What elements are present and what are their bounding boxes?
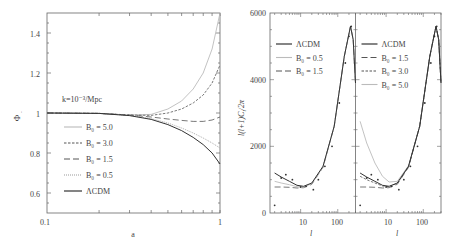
x-axis-label-l-b: l xyxy=(396,229,399,238)
data-point xyxy=(391,185,393,187)
data-point xyxy=(280,177,282,179)
legend-item: B₀ = 1.5 xyxy=(382,54,409,63)
xtick-1: 1 xyxy=(218,218,222,227)
legend-item: ΛCDM xyxy=(86,187,110,196)
xtick-a-10: 10 xyxy=(299,218,307,227)
ytick-0.8: 0.8 xyxy=(30,150,40,159)
xtick-a-100: 100 xyxy=(331,218,343,227)
svg-text:-: - xyxy=(19,111,24,113)
data-point xyxy=(344,62,346,64)
xtick-b-10: 10 xyxy=(384,218,392,227)
ytick-2000: 2000 xyxy=(250,142,266,151)
svg-text:Φ: Φ xyxy=(12,114,22,121)
right-b-legend: ΛCDMB₀ = 1.5B₀ = 3.0B₀ = 5.0 xyxy=(362,40,409,90)
data-point xyxy=(338,102,340,104)
legend-item: B₀ = 1.5 xyxy=(86,155,113,164)
legend-item: B₀ = 5.0 xyxy=(382,81,409,90)
data-point xyxy=(291,179,293,181)
data-point xyxy=(331,145,333,147)
data-point xyxy=(359,204,361,206)
legend-item: ΛCDM xyxy=(296,40,320,49)
ytick-0.6: 0.6 xyxy=(30,190,40,199)
data-point xyxy=(366,177,368,179)
data-point xyxy=(312,189,314,191)
data-point xyxy=(409,165,411,167)
curve-2 xyxy=(47,113,220,121)
data-point xyxy=(434,35,436,37)
cl-curve xyxy=(360,26,441,182)
ytick-4000: 4000 xyxy=(250,76,266,85)
data-point xyxy=(274,204,276,206)
data-point xyxy=(285,174,287,176)
cl-curve xyxy=(275,26,356,187)
legend-item: B₀ = 0.5 xyxy=(296,54,323,63)
left-legend: B₀ = 5.0B₀ = 3.0B₀ = 1.5B₀ = 0.5ΛCDM xyxy=(64,123,113,196)
xtick-b-100: 100 xyxy=(416,218,428,227)
legend-item: B₀ = 0.5 xyxy=(86,171,113,180)
data-point xyxy=(300,186,302,188)
data-point xyxy=(417,145,419,147)
data-point xyxy=(317,179,319,181)
xtick-0.1: 0.1 xyxy=(40,218,50,227)
legend-item: B₀ = 3.0 xyxy=(382,67,409,76)
data-point xyxy=(348,35,350,37)
cl-curve xyxy=(360,26,441,186)
ytick-1: 1 xyxy=(36,110,40,119)
legend-item: B₀ = 3.0 xyxy=(86,139,113,148)
cl-curve xyxy=(360,26,441,188)
data-point xyxy=(436,25,438,27)
x-axis-label-l-a: l xyxy=(310,229,313,238)
right-a-legend: ΛCDMB₀ = 0.5B₀ = 1.5 xyxy=(276,40,323,76)
data-point xyxy=(424,102,426,104)
cl-curve xyxy=(275,26,356,186)
y-axis-label-phi: Φ - xyxy=(12,111,24,121)
ytick-1.2: 1.2 xyxy=(30,70,40,79)
data-point xyxy=(377,179,379,181)
figure: 1.4 1.2 1 0.8 0.6 0.1 1 a Φ - k=10⁻³/Mpc… xyxy=(0,0,449,248)
annotation-k: k=10⁻³/Mpc xyxy=(62,95,102,104)
ytick-6000: 6000 xyxy=(250,9,266,18)
right-panels: 6000 4000 2000 0 10 100 10 100 l l l(l+1… xyxy=(237,9,441,238)
data-point xyxy=(324,165,326,167)
legend-item: ΛCDM xyxy=(382,40,406,49)
data-point xyxy=(370,174,372,176)
curve-4 xyxy=(47,113,220,164)
data-point xyxy=(398,189,400,191)
legend-item: B₀ = 1.5 xyxy=(296,67,323,76)
ytick-0: 0 xyxy=(262,209,266,218)
x-axis-label-a: a xyxy=(131,230,135,239)
svg-text:l(l+1)Cl/2π: l(l+1)Cl/2π xyxy=(237,99,247,136)
curve-1 xyxy=(47,65,220,115)
legend-item: B₀ = 5.0 xyxy=(86,123,113,132)
data-point xyxy=(430,62,432,64)
cl-curve xyxy=(275,26,356,188)
cl-curve xyxy=(360,26,441,186)
data-point xyxy=(403,179,405,181)
data-point xyxy=(350,25,352,27)
right-curves xyxy=(275,26,441,188)
data-point xyxy=(305,185,307,187)
left-curves xyxy=(47,13,220,164)
y-axis-label-cl: l(l+1)Cl/2π xyxy=(237,99,247,136)
left-panel: 1.4 1.2 1 0.8 0.6 0.1 1 a Φ - k=10⁻³/Mpc… xyxy=(12,13,222,239)
data-point xyxy=(385,186,387,188)
ytick-1.4: 1.4 xyxy=(30,30,40,39)
